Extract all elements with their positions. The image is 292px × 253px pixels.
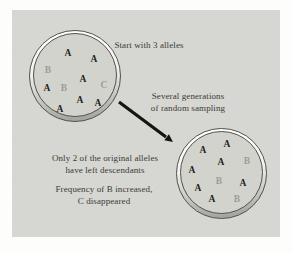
allele-A: A xyxy=(65,49,72,59)
sampling-label: Several generations of random sampling xyxy=(151,90,225,114)
sampling-label-line1: Several generations xyxy=(151,90,225,102)
result-frequency-line2: C disappeared xyxy=(56,195,153,207)
allele-A: A xyxy=(218,158,225,168)
allele-A: A xyxy=(189,166,196,176)
population-before-dish: AABAABCAAA xyxy=(33,33,117,117)
population-after-dish: AAABABAAAB xyxy=(180,131,263,214)
allele-A: A xyxy=(224,140,231,150)
result-descendants-label: Only 2 of the original alleles have left… xyxy=(52,152,158,176)
allele-A: A xyxy=(80,75,87,85)
allele-B: B xyxy=(234,195,240,205)
result-descendants-line2: have left descendants xyxy=(52,164,158,176)
allele-B: B xyxy=(45,66,51,76)
result-frequency-label: Frequency of B increased, C disappeared xyxy=(56,183,153,207)
allele-B: B xyxy=(61,84,67,94)
result-frequency-line1: Frequency of B increased, xyxy=(56,183,153,195)
allele-A: A xyxy=(200,146,207,156)
allele-A: A xyxy=(77,96,84,106)
allele-A: A xyxy=(209,195,216,205)
result-descendants-line1: Only 2 of the original alleles xyxy=(52,152,158,164)
start-label: Start with 3 alleles xyxy=(114,39,183,51)
figure-canvas: AABAABCAAA AAABABAAAB Start with 3 allel… xyxy=(0,0,292,253)
allele-A: A xyxy=(91,55,98,65)
allele-A: A xyxy=(57,105,64,115)
allele-C: C xyxy=(101,81,108,91)
allele-B: B xyxy=(216,177,222,187)
allele-B: B xyxy=(244,157,250,167)
population-before-circle: AABAABCAAA xyxy=(29,30,121,122)
allele-A: A xyxy=(240,179,247,189)
sampling-label-line2: of random sampling xyxy=(151,102,225,114)
allele-A: A xyxy=(95,99,102,109)
population-after-circle: AAABABAAAB xyxy=(176,128,267,219)
allele-A: A xyxy=(44,84,51,94)
allele-A: A xyxy=(195,184,202,194)
